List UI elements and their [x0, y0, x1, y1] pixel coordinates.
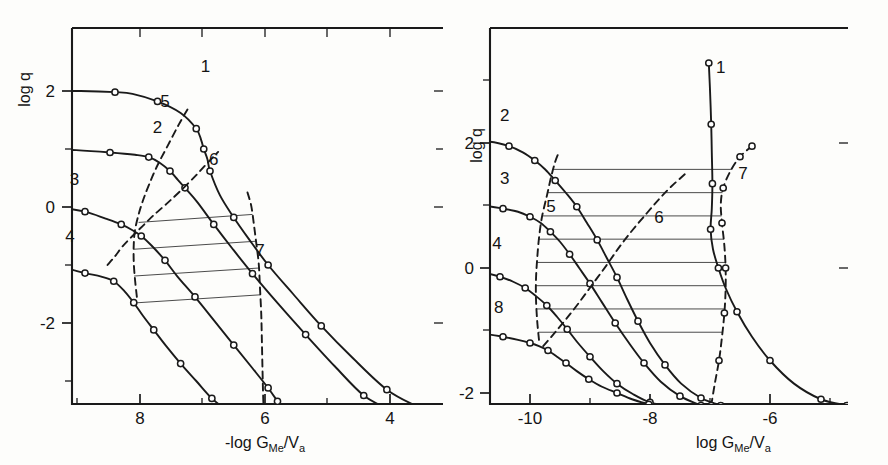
left-curve-1: [40, 88, 421, 410]
right-marker-1: [708, 121, 714, 127]
right-curve-label-5: 5: [546, 197, 555, 216]
left-ytick-label-0: 2: [46, 82, 55, 101]
left-marker-4: [40, 262, 46, 268]
right-marker-2: [506, 143, 512, 149]
right-curve-label-3: 3: [500, 169, 509, 188]
right-xtick-label-0: -10: [518, 409, 543, 428]
right-marker-3: [677, 393, 683, 399]
left-curve-path-3: [43, 207, 277, 401]
right-marker-8: [545, 347, 551, 353]
left-marker-1: [384, 387, 390, 393]
right-curve-path-4: [467, 271, 671, 407]
right-marker-3: [464, 202, 470, 208]
right-ytick-label-2: -2: [459, 384, 474, 403]
left-marker-1: [265, 262, 271, 268]
right-marker-7: [719, 220, 725, 226]
left-xlabel-sub2: a: [299, 442, 306, 454]
svg-text:log GMe/Va: log GMe/Va: [696, 434, 772, 454]
right-marker-1: [767, 357, 773, 363]
right-marker-1: [818, 396, 824, 402]
left-curve-label-4: 4: [65, 227, 74, 246]
right-chart-panel: -10 -8 -6 2 0 -2 log q log GMe/Va 123456…: [444, 0, 888, 465]
right-xlabel-slash: /V: [750, 434, 765, 451]
right-xtick-label-2: -6: [762, 409, 777, 428]
left-y-axis-ticks: [62, 91, 443, 381]
left-xlabel-slash: /V: [284, 434, 299, 451]
right-marker-8: [527, 340, 533, 346]
right-y-axis-ticks: [480, 80, 848, 393]
right-xtick-label-1: -8: [642, 409, 657, 428]
right-marker-7: [737, 154, 743, 160]
left-marker-4: [111, 278, 117, 284]
left-ylabel-text: log q: [16, 72, 33, 107]
right-marker-3: [500, 206, 506, 212]
left-marker-4: [178, 361, 184, 367]
right-x-tick-labels: -10 -8 -6: [518, 409, 778, 428]
left-curve-path-4: [43, 265, 226, 410]
left-marker-2: [146, 154, 152, 160]
right-marker-4: [522, 285, 528, 291]
right-y-tick-labels: 2 0 -2: [459, 134, 474, 403]
left-marker-2: [40, 146, 46, 152]
left-marker-3: [192, 294, 198, 300]
left-marker-1: [193, 126, 199, 132]
right-ylabel-text: log q: [468, 128, 485, 163]
right-x-axis-title: log GMe/Va: [696, 434, 772, 454]
right-marker-1: [709, 181, 715, 187]
left-marker-3: [274, 398, 280, 404]
left-marker-3: [231, 342, 237, 348]
left-marker-1: [231, 214, 237, 220]
left-marker-3: [82, 209, 88, 215]
right-marker-1: [715, 265, 721, 271]
right-marker-8: [500, 334, 506, 340]
right-curve-label-4: 4: [492, 234, 501, 253]
right-marker-7: [716, 357, 722, 363]
right-curve-path-1: [709, 63, 847, 406]
right-marker-4: [587, 354, 593, 360]
right-marker-2: [698, 395, 704, 401]
left-x-axis-title: -log GMe/Va: [225, 434, 306, 454]
left-y-axis-title: log q: [16, 72, 33, 107]
left-xtick-label-0: 8: [135, 409, 144, 428]
figure-root: 8 6 4 2 0 -2 log q -log GMe/Va 1234567: [0, 0, 888, 465]
svg-text:-log GMe/Va: -log GMe/Va: [225, 434, 306, 454]
left-marker-2: [211, 221, 217, 227]
right-marker-8: [614, 390, 620, 396]
left-xlabel-prefix: -log G: [225, 434, 269, 451]
right-xlabel-sub1: Me: [734, 442, 749, 454]
left-ytick-label-1: 0: [46, 198, 55, 217]
left-marker-3: [162, 257, 168, 263]
right-curve-4: [464, 268, 674, 410]
right-marker-2: [532, 157, 538, 163]
right-marker-3: [698, 402, 704, 408]
left-marker-4: [223, 407, 229, 413]
right-marker-1: [708, 226, 714, 232]
left-curve-label-7: 7: [255, 241, 264, 260]
left-chart-panel: 8 6 4 2 0 -2 log q -log GMe/Va 1234567: [0, 0, 444, 465]
right-marker-4: [497, 274, 503, 280]
right-marker-8: [563, 360, 569, 366]
left-y-tick-labels: 2 0 -2: [40, 82, 55, 333]
right-ytick-label-1: 0: [465, 259, 474, 278]
right-marker-7: [708, 402, 714, 408]
left-marker-3: [138, 233, 144, 239]
right-marker-2: [594, 237, 600, 243]
left-ytick-label-2: -2: [40, 314, 55, 333]
right-marker-8: [464, 331, 470, 337]
left-curve-label-5: 5: [160, 92, 169, 111]
left-marker-4: [82, 270, 88, 276]
right-curve-1: [706, 60, 850, 409]
right-marker-2: [552, 177, 558, 183]
right-curve-label-8: 8: [494, 298, 503, 317]
right-curve-label-2: 2: [500, 106, 509, 125]
left-marker-2: [303, 332, 309, 338]
right-marker-4: [564, 326, 570, 332]
right-hatching: [536, 169, 732, 332]
left-curve-label-3: 3: [70, 170, 79, 189]
right-marker-7: [749, 143, 755, 149]
right-marker-2: [635, 318, 641, 324]
left-curve-path-1: [43, 91, 418, 407]
left-hatch-line: [134, 268, 259, 276]
left-marker-2: [361, 392, 367, 398]
right-marker-3: [567, 251, 573, 257]
